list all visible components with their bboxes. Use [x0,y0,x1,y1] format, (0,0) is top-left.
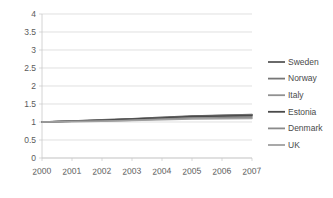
y-axis-tick-label: 4 [31,9,36,19]
x-axis-tick-label: 2005 [182,165,202,176]
y-axis-tick-label: 1.5 [24,99,36,109]
x-axis-tick-label: 2002 [92,165,112,176]
y-axis-tick-label: 0 [31,153,36,163]
y-axis-tick-label: 2 [31,81,36,91]
y-axis-tick-label: 2.5 [24,63,36,73]
x-axis-tick-label: 2003 [122,165,142,176]
x-axis-tick-label: 2006 [212,165,232,176]
x-axis-tick-label: 2000 [32,165,52,176]
x-axis-tick-label: 2007 [242,165,262,176]
legend-label-uk: UK [288,140,300,150]
y-axis-tick-label: 3.5 [24,27,36,37]
x-axis-tick-label: 2001 [62,165,82,176]
legend-label-estonia: Estonia [288,107,317,117]
y-axis-tick-label: 3 [31,45,36,55]
chart-canvas: 43.532.521.510.50 2000200120022003200420… [0,0,333,198]
legend-label-sweden: Sweden [288,57,319,67]
line-chart: 43.532.521.510.50 2000200120022003200420… [0,0,333,198]
legend-label-norway: Norway [288,73,318,83]
y-axis-tick-label: 1 [31,117,36,127]
legend-label-denmark: Denmark [288,123,323,133]
y-axis-tick-label: 0.5 [24,135,36,145]
legend-label-italy: Italy [288,90,304,100]
x-axis-tick-label: 2004 [152,165,172,176]
